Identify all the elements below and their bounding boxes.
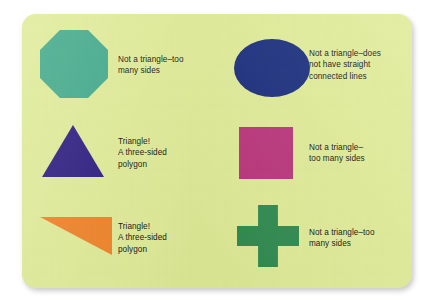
- shape-slot: [223, 199, 309, 277]
- shape-label-square: Not a triangle– too many sides: [309, 142, 365, 164]
- shape-label-octagon: Not a triangle–too many sides: [118, 54, 184, 76]
- shape-entry-triangle-right: Triangle! A three-sided polygon: [32, 199, 167, 277]
- shape-label-ellipse: Not a triangle–does not have straight co…: [309, 48, 381, 82]
- shape-chart-card: Not a triangle–too many sides Not a tria…: [22, 14, 412, 288]
- triangle-right-shape: [40, 217, 112, 255]
- shape-entry-octagon: Not a triangle–too many sides: [32, 26, 184, 104]
- shape-entry-cross: Not a triangle–too many sides: [223, 199, 375, 277]
- shape-slot: [32, 199, 118, 277]
- cross-shape: [237, 205, 299, 267]
- square-shape: [239, 127, 293, 179]
- shape-entry-triangle-equilateral: Triangle! A three-sided polygon: [32, 114, 167, 192]
- ellipse-shape: [234, 39, 310, 97]
- shape-slot: [223, 26, 309, 104]
- shape-entry-square: Not a triangle– too many sides: [223, 114, 365, 192]
- shape-label-triangle-right: Triangle! A three-sided polygon: [118, 221, 167, 255]
- image-canvas: Not a triangle–too many sides Not a tria…: [0, 0, 432, 303]
- shape-slot: [32, 114, 118, 192]
- shape-label-cross: Not a triangle–too many sides: [309, 227, 375, 249]
- shape-entry-ellipse: Not a triangle–does not have straight co…: [223, 26, 381, 104]
- triangle-equilateral-shape: [42, 125, 104, 177]
- shape-slot: [32, 26, 118, 104]
- octagon-shape: [40, 30, 108, 98]
- shape-slot: [223, 114, 309, 192]
- shape-label-triangle-equilateral: Triangle! A three-sided polygon: [118, 136, 167, 170]
